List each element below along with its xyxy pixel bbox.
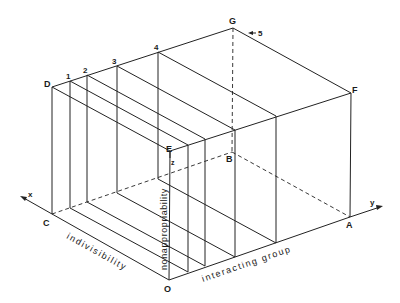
- edge-G-F: [233, 28, 351, 93]
- edge-F-E: [170, 93, 351, 151]
- isometric-diagram: D G F E C O A B 1 2 3 4 5 x y z indivisi…: [0, 0, 400, 303]
- x-axis-extension: [22, 197, 52, 214]
- x-axis-arrowhead-icon: [20, 196, 27, 201]
- vertex-label-C: C: [43, 218, 50, 228]
- axis-name-nonappropriability: nonappropriability: [159, 188, 169, 270]
- edge-C-O: [52, 214, 169, 280]
- axis-letter-x: x: [28, 190, 33, 199]
- slice-label-4: 4: [154, 43, 159, 52]
- y-axis-arrowhead-icon: [376, 205, 383, 210]
- pointer-arrowhead-icon: [248, 31, 253, 35]
- top-face: [52, 28, 351, 151]
- slice-5-pointer: [248, 31, 256, 35]
- slice-label-3: 3: [112, 57, 117, 66]
- vertex-label-G: G: [229, 16, 236, 26]
- slice-label-1: 1: [66, 72, 71, 81]
- vertex-label-O: O: [164, 284, 171, 294]
- slice-4: [158, 52, 276, 243]
- edge-B-A: [232, 152, 350, 217]
- vertex-label-F: F: [352, 85, 358, 95]
- slice-label-2: 2: [83, 66, 88, 75]
- hidden-edges: [52, 28, 350, 217]
- edge-F-A: [350, 93, 351, 217]
- vertex-label-A: A: [346, 220, 353, 230]
- vertex-label-B: B: [226, 154, 233, 164]
- axis-letter-y: y: [370, 198, 375, 207]
- vertex-label-D: D: [44, 79, 51, 89]
- slice-label-5: 5: [258, 29, 263, 38]
- edge-G-B: [232, 28, 233, 152]
- edge-O-A: [169, 217, 350, 280]
- y-axis-extension: [350, 207, 380, 217]
- axis-letter-z: z: [171, 159, 175, 166]
- axis-letters: x y z: [28, 159, 375, 207]
- vertex-label-E: E: [166, 144, 172, 154]
- edge-E-O: [169, 151, 170, 280]
- axis-arrows: [20, 151, 383, 217]
